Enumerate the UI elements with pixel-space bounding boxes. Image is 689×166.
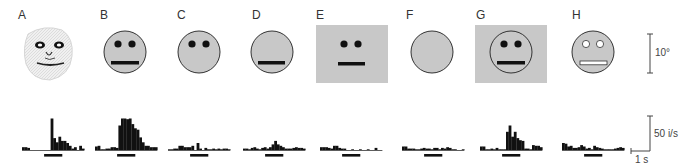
psth-histograms <box>22 119 625 157</box>
angle-scale-label: 10° <box>655 47 670 58</box>
stimulus-g-face-on-square <box>475 25 547 83</box>
stimulus-d-face-mouth-only <box>251 31 293 73</box>
histogram-g <box>480 126 543 157</box>
time-scale-label: 1 s <box>635 154 648 165</box>
angle-scale-bar <box>647 34 653 73</box>
stimulus-period-bar <box>265 154 283 157</box>
histogram-h <box>562 143 625 157</box>
stimulus-period-bar <box>44 154 62 157</box>
stimulus-e-square-features <box>316 25 388 83</box>
stimulus-h-contrast-reversed <box>572 31 614 73</box>
histogram-f <box>402 147 465 157</box>
stimulus-period-bar <box>584 154 602 157</box>
stimulus-a-monkey-face <box>24 28 72 80</box>
stimulus-period-bar <box>190 154 208 157</box>
histogram-b <box>95 119 158 157</box>
rate-scale-label: 50 i/s <box>654 128 678 139</box>
histogram-d <box>243 141 306 157</box>
histogram-e <box>320 146 382 157</box>
stimulus-period-bar <box>342 154 360 157</box>
stimulus-period-bar <box>502 154 520 157</box>
stimulus-c-face-eyes-only <box>178 31 220 73</box>
figure-canvas <box>0 0 689 166</box>
histogram-c <box>168 143 231 157</box>
histogram-a <box>22 119 85 157</box>
stimulus-b-face-eyes-mouth <box>104 31 146 73</box>
stimulus-f-blank-circle <box>411 31 453 73</box>
rate-time-scale-bar <box>631 116 653 154</box>
stimulus-period-bar <box>424 154 442 157</box>
stimulus-period-bar <box>117 154 135 157</box>
